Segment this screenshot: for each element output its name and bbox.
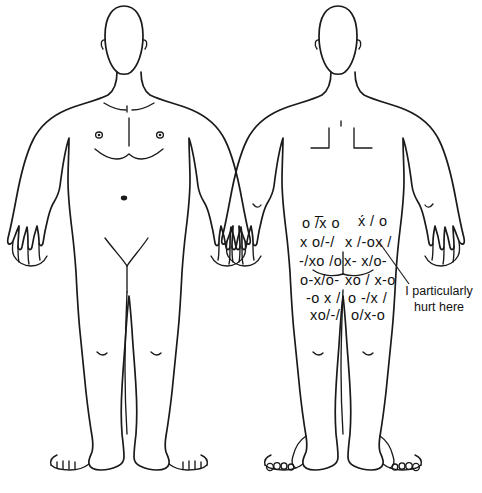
back-knee-right [363,352,373,355]
back-left-foot [265,436,306,471]
front-nipple-right-dot [159,134,162,137]
front-clavicle-right [132,103,154,110]
posterior-figure [222,6,465,471]
annotation-line-2: hurt here [400,300,478,316]
pain-mark-row-0-left: o /̅x o [302,215,340,231]
front-pectoral-line [95,149,163,159]
body-chart-svg: o /̅x o x́ / o x o/-/ x /-ox / -/xo /o x… [0,0,482,493]
back-elbow-right [425,204,433,207]
pain-mark-row-5-left: xo/-/ [310,307,341,323]
back-elbow-left [253,204,261,207]
back-knee-left [313,352,323,355]
pain-drawing-canvas: o /̅x o x́ / o x o/-/ x /-ox / -/xo /o x… [0,0,482,493]
annotation-note: I particularly hurt here [400,284,478,315]
annotation-line-1: I particularly [400,284,478,300]
pain-mark-row-2-right: x- x/o- [344,253,387,269]
front-groin-left [105,238,127,266]
pain-mark-row-4-left: -o x / [306,290,341,306]
front-right-foot [169,455,207,470]
back-scapula-left [311,128,329,148]
pain-mark-row-1-right: x /-ox / [345,234,392,250]
pain-mark-row-3-left: o-x/o- [300,272,339,288]
front-knee-right [151,352,161,355]
front-head [105,6,143,74]
pain-mark-row-0-right: x́ / o [358,213,387,229]
front-knee-left [97,352,107,355]
front-navel [121,196,127,201]
pain-mark-row-1-left: x o/-/ [300,234,335,250]
front-left-foot [51,455,89,470]
pain-markings-group: o /̅x o x́ / o x o/-/ x /-ox / -/xo /o x… [299,213,396,323]
back-head [319,6,357,74]
pain-mark-row-3-right: xo / x-o [345,272,396,288]
pain-mark-row-4-right: o -/x / [348,290,388,306]
back-right-foot [380,436,421,471]
anterior-figure [8,6,251,470]
pain-mark-row-2-left: -/xo /o [299,253,342,269]
pain-mark-row-5-right: o/x-o [351,307,385,323]
front-clavicle-left [104,103,126,110]
back-scapula-right [354,128,372,148]
front-nipple-left-dot [98,134,101,137]
front-groin-right [127,238,148,266]
front-leg-gap-left [125,292,127,434]
